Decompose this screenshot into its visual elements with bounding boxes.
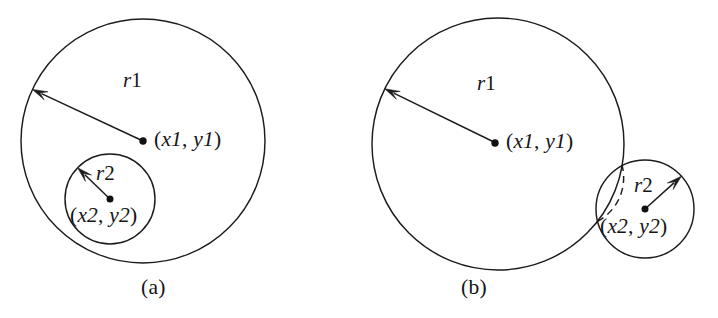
- panel-a-large-center-dot: [139, 137, 146, 144]
- panel-a-x1: x1: [161, 127, 182, 151]
- panel-a-small-center-label: (x2, y2): [70, 205, 137, 227]
- panel-a: [21, 19, 265, 263]
- panel-b-radius2-num: 2: [642, 173, 653, 197]
- panel-b-radius1-num: 1: [485, 71, 496, 95]
- panel-b-y2: y2: [639, 214, 660, 238]
- panel-a-y2: y2: [109, 203, 130, 227]
- panel-b-small-center-dot: [642, 206, 649, 213]
- panel-a-large-center-label: (x1, y1): [154, 129, 221, 151]
- panel-a-radius2-num: 2: [104, 161, 115, 185]
- panel-b-large-center-dot: [491, 139, 498, 146]
- panel-b-x1: x1: [513, 129, 534, 153]
- panel-b-radius1-arrow: [385, 89, 498, 144]
- panel-b-radius2-label: r2: [634, 175, 653, 196]
- panel-b-radius1-label: r1: [477, 73, 496, 94]
- figure-root: r1 (x1, y1) r2 (x2, y2) (a) r1 (x1, y1) …: [0, 0, 718, 318]
- panel-b-y1: y1: [545, 129, 566, 153]
- panel-a-x2: x2: [77, 203, 98, 227]
- panel-b-x2: x2: [607, 214, 628, 238]
- panel-a-y1: y1: [193, 127, 214, 151]
- panel-a-radius1-label: r1: [123, 70, 142, 91]
- panel-a-radius1-arrow: [32, 89, 143, 141]
- panel-b-caption: (b): [461, 277, 487, 299]
- panel-a-radius1-num: 1: [131, 68, 142, 92]
- panel-a-caption: (a): [141, 277, 166, 299]
- diagram-canvas: [0, 0, 718, 318]
- panel-b-large-center-label: (x1, y1): [506, 131, 573, 153]
- panel-a-small-center-dot: [107, 196, 114, 203]
- panel-a-radius2-label: r2: [96, 163, 115, 184]
- panel-b-small-center-label: (x2, y2): [600, 216, 667, 238]
